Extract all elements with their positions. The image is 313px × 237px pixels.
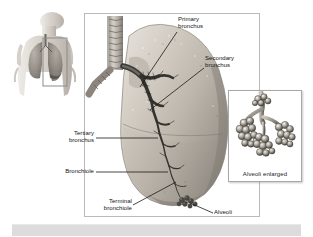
figure-stage: Alveoli enlarged Primary bronchus Second…: [0, 0, 313, 237]
alveoli-inset-panel: Alveoli enlarged: [228, 90, 302, 182]
label-tertiary-bronchus: Tertiary bronchus: [44, 130, 94, 145]
label-bronchiole: Bronchiole: [34, 168, 94, 175]
alveolar-sac-top: [252, 94, 271, 106]
left-main-bronchus: [89, 70, 110, 94]
torso-thumbnail: [12, 12, 76, 98]
alveoli-enlarged-illustration: [229, 91, 301, 165]
label-primary-bronchus: Primary bronchus: [178, 16, 224, 31]
caption-bar: [12, 224, 301, 236]
label-alveoli: Alveoli: [214, 209, 248, 216]
trachea: [108, 16, 123, 70]
inset-caption: Alveoli enlarged: [229, 171, 301, 177]
torso-head-neck: [40, 12, 64, 39]
label-terminal-bronchiole: Terminal bronchiole: [86, 198, 132, 213]
alveolar-sac-center: [253, 133, 275, 156]
label-secondary-bronchus: Secondary bronchus: [205, 55, 253, 70]
lung-body: [121, 24, 228, 205]
